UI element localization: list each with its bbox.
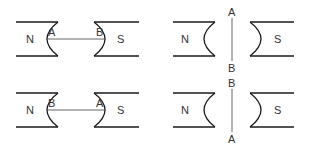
wire-end-label: A	[96, 97, 104, 109]
panel-bottom-left: N S B A	[16, 93, 139, 127]
magnet-diagram: N S A B N S A B	[0, 0, 313, 151]
north-label: N	[181, 33, 189, 45]
wire-end-label: B	[228, 62, 235, 74]
north-pole-magnet	[173, 22, 215, 56]
south-pole-magnet	[250, 93, 294, 127]
panel-top-left: N S A B	[16, 22, 139, 56]
wire-end-label: A	[48, 26, 56, 38]
south-label: S	[274, 104, 281, 116]
wire-end-label: B	[48, 97, 55, 109]
north-label: N	[26, 33, 34, 45]
south-pole-magnet	[250, 22, 294, 56]
wire-end-label: A	[228, 133, 236, 145]
north-pole-magnet	[173, 93, 215, 127]
north-label: N	[181, 104, 189, 116]
wire-end-label: A	[228, 6, 236, 18]
panel-bottom-right: N S B A	[173, 77, 294, 145]
panel-top-right: N S A B	[173, 6, 294, 74]
south-label: S	[117, 33, 124, 45]
wire-end-label: B	[96, 26, 103, 38]
north-label: N	[26, 104, 34, 116]
south-label: S	[274, 33, 281, 45]
wire-end-label: B	[228, 77, 235, 89]
south-label: S	[117, 104, 124, 116]
